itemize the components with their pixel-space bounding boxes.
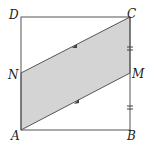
label-C: C — [127, 7, 136, 21]
label-B: B — [126, 129, 136, 143]
label-D: D — [8, 8, 19, 22]
shaded-parallelogram — [21, 17, 130, 130]
label-N: N — [7, 68, 19, 82]
label-A: A — [10, 129, 20, 143]
geometry-figure: D C N M A B — [0, 0, 150, 144]
label-M: M — [131, 67, 145, 81]
